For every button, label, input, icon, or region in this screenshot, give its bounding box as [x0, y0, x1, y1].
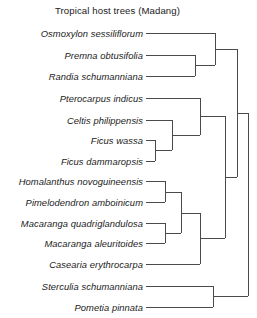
phylogenetic-tree-figure: Tropical host trees (Madang) Osmoxylon s…: [0, 0, 257, 318]
dendrogram-branches: [0, 0, 257, 318]
